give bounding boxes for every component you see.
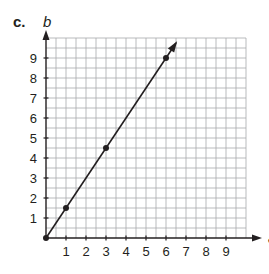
x-tick-label: 6	[162, 244, 169, 259]
data-series	[43, 41, 177, 241]
y-tick-label: 6	[30, 111, 37, 126]
y-tick-label: 1	[30, 211, 37, 226]
x-tick-label: 1	[62, 244, 69, 259]
y-tick-label: 8	[30, 71, 37, 86]
x-tick-label: 4	[122, 244, 129, 259]
y-tick-label: 9	[30, 51, 37, 66]
data-point	[63, 205, 69, 211]
x-tick-label: 3	[102, 244, 109, 259]
line-chart: 123456789123456789 a b	[0, 0, 269, 274]
x-tick-label: 9	[222, 244, 229, 259]
y-tick-label: 5	[30, 131, 37, 146]
y-tick-label: 2	[30, 191, 37, 206]
data-point	[163, 55, 169, 61]
y-tick-label: 7	[30, 91, 37, 106]
data-point	[103, 145, 109, 151]
axes	[43, 30, 263, 242]
grid	[46, 38, 246, 238]
x-axis-label: a	[268, 229, 269, 246]
x-tick-label: 8	[202, 244, 209, 259]
x-tick-label: 7	[182, 244, 189, 259]
y-axis-label: b	[43, 13, 51, 30]
y-tick-label: 4	[30, 151, 37, 166]
x-tick-label: 2	[82, 244, 89, 259]
data-point	[43, 235, 49, 241]
x-tick-label: 5	[142, 244, 149, 259]
y-tick-label: 3	[30, 171, 37, 186]
